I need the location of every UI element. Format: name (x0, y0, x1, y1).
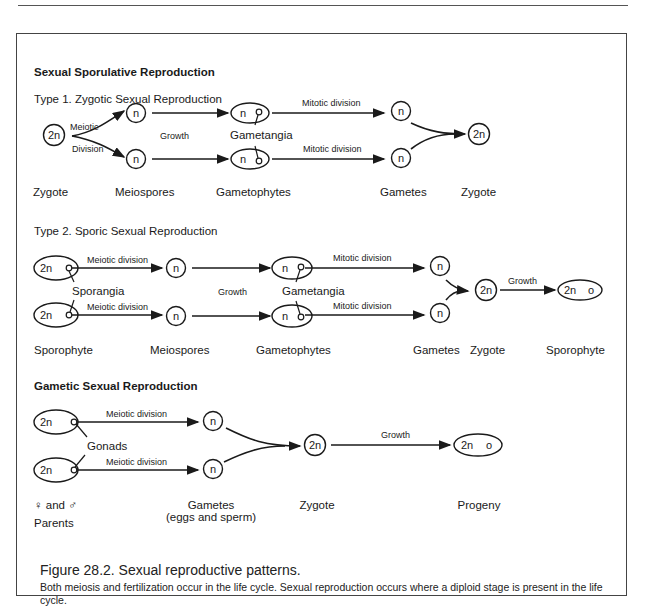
svg-text:n: n (437, 307, 443, 319)
growth-label-final: Growth (508, 276, 537, 286)
mitotic-label-bottom: Mitotic division (333, 301, 392, 311)
gametic-gamete-bottom: n (204, 460, 223, 479)
stage-label-sporophyte: Sporophyte (34, 344, 93, 356)
svg-text:o: o (486, 439, 492, 451)
caption-body: Both meiosis and fertilization occur in … (40, 581, 620, 607)
svg-text:n: n (173, 262, 179, 274)
figure-caption: Figure 28.2. Sexual reproductive pattern… (40, 562, 620, 607)
type1-gametophyte-top: n (231, 103, 269, 123)
svg-text:2n: 2n (473, 128, 485, 140)
gametic-progeny: 2n o (454, 434, 502, 456)
type2-title: Type 2. Sporic Sexual Reproduction (34, 225, 217, 237)
type2-fusion-arrow (446, 280, 468, 291)
stage-label-gametes: Gametes (413, 344, 460, 356)
type2-meiospore-top: n (167, 259, 186, 278)
meiotic-label-bottom: Meiotic division (106, 457, 167, 467)
type2-gamete-top: n (431, 257, 450, 276)
type1-gametophyte-bottom: n (231, 149, 269, 169)
zygote-label: Zygote (299, 499, 334, 511)
stage-label-zygote-final: Zygote (461, 186, 496, 198)
stage-label-meiospores: Meiospores (150, 344, 210, 356)
svg-text:n: n (173, 310, 179, 322)
svg-text:n: n (282, 262, 288, 274)
meiotic-label-bottom: Meiotic division (87, 302, 148, 312)
division-label: Division (72, 144, 104, 154)
gonads-label: Gonads (87, 440, 128, 452)
type1-meiospore-bottom: n (127, 150, 146, 169)
svg-text:2n: 2n (40, 416, 52, 428)
mitotic-label-bottom: Mitotic division (303, 144, 362, 154)
caption-title: Figure 28.2. Sexual reproductive pattern… (40, 562, 620, 578)
svg-text:o: o (588, 284, 594, 296)
svg-text:n: n (282, 310, 288, 322)
type1-gamete-top: n (392, 102, 411, 121)
svg-text:n: n (437, 260, 443, 272)
type2-gamete-bottom: n (431, 304, 450, 323)
svg-text:2n: 2n (480, 284, 492, 296)
mitotic-label-top: Mitotic division (333, 253, 392, 263)
stage-label-sporophyte-final: Sporophyte (546, 344, 605, 356)
stage-label-meiospores: Meiospores (115, 186, 175, 198)
parents-label: Parents (34, 517, 74, 529)
stage-label-gametes: Gametes (380, 186, 427, 198)
meiotic-label: Meiotic (70, 122, 99, 132)
type1-zygote-final: 2n (469, 124, 490, 145)
type2-zygote: 2n (476, 280, 497, 301)
svg-text:n: n (398, 105, 404, 117)
growth-label: Growth (218, 287, 247, 297)
growth-label: Growth (160, 131, 189, 141)
reproduction-diagram: Sexual Sporulative Reproduction Type 1. … (0, 0, 645, 610)
svg-text:n: n (133, 107, 139, 119)
type1-title: Type 1. Zygotic Sexual Reproduction (34, 93, 222, 105)
svg-text:2n: 2n (40, 262, 52, 274)
meiotic-label-top: Meiotic division (87, 255, 148, 265)
type1-meiospore-top: n (127, 104, 146, 123)
svg-text:2n: 2n (564, 284, 576, 296)
type2-sporophyte-final: 2n o (558, 280, 602, 300)
svg-text:2n: 2n (461, 439, 473, 451)
svg-text:n: n (398, 152, 404, 164)
gametic-fusion-arrow (226, 428, 300, 446)
type1-gamete-bottom: n (392, 149, 411, 168)
stage-label-gametophytes: Gametophytes (216, 186, 291, 198)
sporangia-label: Sporangia (72, 285, 125, 297)
svg-text:n: n (210, 463, 216, 475)
sporulative-title: Sexual Sporulative Reproduction (34, 66, 215, 78)
gametangia-label: Gametangia (230, 129, 293, 141)
gametic-parent-top: 2n (34, 410, 78, 434)
type1-fusion-arrow (411, 123, 465, 134)
mitotic-label-top: Mitotic division (302, 98, 361, 108)
gametes-sub-label: (eggs and sperm) (166, 511, 256, 523)
type2-meiospore-bottom: n (167, 307, 186, 326)
growth-label: Growth (381, 430, 410, 440)
gametes-label: Gametes (188, 499, 235, 511)
svg-text:n: n (210, 415, 216, 427)
svg-text:2n: 2n (48, 129, 60, 141)
stage-label-gametophytes: Gametophytes (256, 344, 331, 356)
parents-symbols: ♀ and ♂ (34, 499, 77, 511)
meiotic-label-top: Meiotic division (106, 409, 167, 419)
gametic-title: Gametic Sexual Reproduction (34, 380, 198, 392)
gametangia-label: Gametangia (282, 285, 345, 297)
svg-text:2n: 2n (40, 309, 52, 321)
gametic-parent-bottom: 2n (34, 458, 78, 482)
svg-text:2n: 2n (309, 439, 321, 451)
svg-text:n: n (133, 153, 139, 165)
stage-label-zygote: Zygote (33, 186, 68, 198)
gametic-zygote: 2n (305, 435, 326, 456)
svg-text:2n: 2n (40, 464, 52, 476)
stage-label-zygote: Zygote (470, 344, 505, 356)
svg-text:n: n (240, 107, 246, 119)
type2-gametophyte-bottom: n (272, 305, 312, 327)
progeny-label: Progeny (458, 499, 501, 511)
type1-zygote-node: 2n (44, 125, 65, 146)
svg-text:n: n (240, 153, 246, 165)
gametic-gamete-top: n (204, 412, 223, 431)
